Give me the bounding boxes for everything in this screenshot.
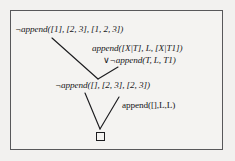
empty-clause-box: [96, 132, 105, 141]
program-clause-base: append([],L,L): [122, 100, 175, 110]
goal-clause-middle: ¬append([], [2, 3], [2, 3]): [55, 80, 150, 90]
program-clause-recursive-body: ∨¬append(T, L, T1): [103, 55, 176, 65]
goal-clause-root: ¬append([1], [2, 3], [1, 2, 3]): [15, 24, 123, 34]
program-clause-recursive-head: append([X|T], L, [X|T1]): [92, 43, 182, 53]
resolution-tree-figure: ¬append([1], [2, 3], [1, 2, 3]) append([…: [0, 0, 235, 161]
